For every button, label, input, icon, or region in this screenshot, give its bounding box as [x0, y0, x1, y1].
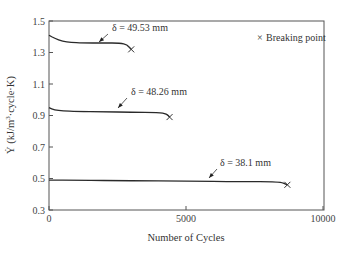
- annotation-label: δ = 38.1 mm: [220, 157, 271, 168]
- legend-label: Breaking point: [266, 32, 326, 43]
- y-tick-label: 0.3: [33, 205, 46, 216]
- x-axis-ticks: 0500010000: [47, 206, 336, 224]
- y-axis-ticks: 0.30.50.70.91.11.31.5: [33, 16, 54, 216]
- breaking-point-x-icon: [167, 114, 173, 120]
- y-tick-label: 1.3: [33, 47, 46, 58]
- series-line: [49, 180, 287, 185]
- series-annotation: δ = 48.26 mm: [118, 86, 187, 108]
- y-tick-label: 1.1: [33, 79, 46, 90]
- y-tick-label: 0.9: [33, 110, 46, 121]
- annotation-label: δ = 49.53 mm: [112, 22, 168, 33]
- x-tick-label: 5000: [176, 213, 196, 224]
- breaking-point-x-icon: [284, 182, 290, 188]
- x-axis-title: Number of Cycles: [148, 232, 225, 243]
- legend-marker: ×: [257, 32, 263, 43]
- y-axis-title: Ẏ (kJ/m3·cycle·K): [4, 76, 17, 154]
- x-tick-label: 0: [47, 213, 52, 224]
- annotation-label: δ = 48.26 mm: [131, 86, 187, 97]
- breaking-point-x-icon: [128, 46, 134, 52]
- y-tick-label: 0.5: [33, 173, 46, 184]
- chart: 0.30.50.70.91.11.31.5 0500010000 δ = 49.…: [0, 0, 355, 253]
- y-tick-label: 1.5: [33, 16, 46, 27]
- series-annotations: δ = 49.53 mmδ = 48.26 mmδ = 38.1 mm: [99, 22, 271, 178]
- series-line: [49, 108, 170, 118]
- series-annotation: δ = 38.1 mm: [209, 157, 271, 178]
- legend: × Breaking point: [257, 32, 326, 43]
- series-annotation: δ = 49.53 mm: [99, 22, 168, 42]
- x-tick-label: 10000: [311, 213, 336, 224]
- y-tick-label: 0.7: [33, 142, 46, 153]
- series-line: [49, 35, 131, 49]
